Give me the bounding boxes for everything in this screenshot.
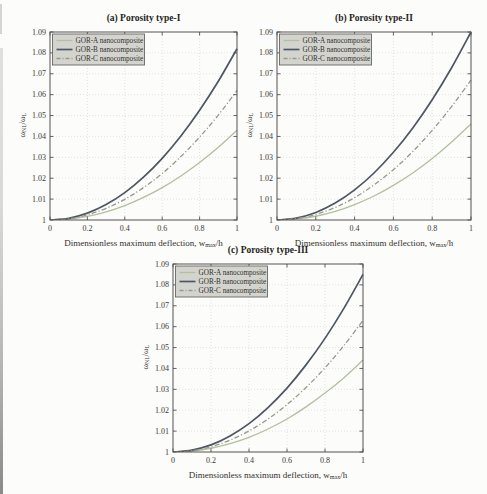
x-tick-label: 0.8: [195, 224, 205, 233]
y-tick-label: 1.03: [155, 385, 169, 394]
x-tick-label: 0: [48, 224, 52, 233]
y-tick-label: 1.01: [155, 427, 169, 436]
y-label-mid: /ω: [140, 348, 150, 356]
y-tick-label: 1.03: [32, 153, 46, 162]
y-tick-label: 1.04: [155, 364, 169, 373]
y-axis-label-a: ωNL/ωL: [17, 93, 27, 157]
curve-gor-b: [50, 49, 237, 220]
x-tick-label: 0: [275, 224, 279, 233]
y-axis-label-b: ωNL/ωL: [244, 93, 254, 157]
x-tick-label: 0.4: [244, 456, 254, 465]
x-tick-label: 0.8: [320, 456, 330, 465]
scan-edge-smudge: [0, 4, 2, 34]
y-label-omega: ω: [140, 364, 150, 370]
legend: GOR-A nanocompositeGOR-B nanocompositeGO…: [280, 34, 372, 65]
chart-canvas-b: 00.20.40.60.8111.011.021.031.041.051.061…: [235, 10, 474, 256]
y-tick-label: 1: [42, 216, 46, 225]
legend-label: GOR-A nanocomposite: [76, 37, 144, 45]
legend-label: GOR-C nanocomposite: [199, 287, 267, 295]
y-label-mid: /ω: [244, 116, 254, 124]
y-tick-label: 1.05: [155, 343, 169, 352]
x-tick-label: 0.2: [206, 456, 216, 465]
y-label-sub-l: L: [248, 113, 254, 117]
x-tick-label: 0.2: [82, 224, 92, 233]
legend-label: GOR-A nanocomposite: [303, 37, 371, 45]
y-tick-label: 1.07: [259, 69, 273, 78]
legend: GOR-A nanocompositeGOR-B nanocompositeGO…: [53, 34, 145, 65]
y-label-mid: /ω: [17, 116, 27, 124]
y-label-sub-l: L: [144, 345, 150, 349]
y-tick-label: 1.07: [32, 69, 46, 78]
x-tick-label: 0.6: [282, 456, 292, 465]
y-tick-label: 1.06: [259, 90, 273, 99]
subplot-c: (c) Porosity type-III 00.20.40.60.8111.0…: [131, 242, 366, 488]
y-label-sub-l: L: [21, 113, 27, 117]
legend-label: GOR-B nanocomposite: [199, 278, 267, 286]
chart-canvas-c: 00.20.40.60.8111.011.021.031.041.051.061…: [131, 242, 366, 488]
legend-label: GOR-C nanocomposite: [303, 55, 371, 63]
x-tick-label: 1: [361, 456, 365, 465]
y-label-sub-nl: NL: [144, 356, 150, 364]
y-tick-label: 1.05: [32, 111, 46, 120]
y-tick-label: 1.09: [155, 260, 169, 269]
legend: GOR-A nanocompositeGOR-B nanocompositeGO…: [176, 266, 268, 297]
x-label-sub: max: [330, 474, 341, 480]
legend-label: GOR-B nanocomposite: [76, 46, 144, 54]
y-tick-label: 1.03: [259, 153, 273, 162]
x-tick-label: 1: [469, 224, 473, 233]
legend-label: GOR-C nanocomposite: [76, 55, 144, 63]
chart-canvas-a: 00.20.40.60.8111.011.021.031.041.051.061…: [8, 10, 240, 256]
y-tick-label: 1.02: [155, 406, 169, 415]
x-label-sub: max: [436, 242, 447, 248]
y-tick-label: 1.08: [32, 48, 46, 57]
scan-edge-shadow: [0, 48, 3, 494]
y-tick-label: 1.05: [259, 111, 273, 120]
y-tick-label: 1.04: [32, 132, 46, 141]
x-axis-label-c: Dimensionless maximum deflection, wmax/h: [173, 470, 363, 480]
y-tick-label: 1.08: [259, 48, 273, 57]
y-label-sub-nl: NL: [21, 124, 27, 132]
x-tick-label: 0.4: [350, 224, 360, 233]
y-tick-label: 1.09: [32, 28, 46, 37]
x-label-suffix: /h: [446, 238, 453, 248]
y-tick-label: 1.07: [155, 301, 169, 310]
y-axis-label-c: ωNL/ωL: [140, 325, 150, 389]
y-label-omega: ω: [17, 132, 27, 138]
y-tick-label: 1: [165, 448, 169, 457]
y-label-sub-nl: NL: [248, 124, 254, 132]
curve-gor-a: [50, 130, 237, 220]
legend-label: GOR-A nanocomposite: [199, 269, 267, 277]
subplot-a: (a) Porosity type-I 00.20.40.60.8111.011…: [8, 10, 240, 256]
y-tick-label: 1.06: [32, 90, 46, 99]
x-tick-label: 0.2: [311, 224, 321, 233]
y-tick-label: 1.02: [32, 174, 46, 183]
x-tick-label: 0: [171, 456, 175, 465]
y-tick-label: 1.06: [155, 322, 169, 331]
y-tick-label: 1.04: [259, 132, 273, 141]
figure-page: { "page": { "background": "#fcfcfa" }, "…: [0, 0, 487, 494]
y-tick-label: 1.01: [259, 195, 273, 204]
curve-gor-a: [173, 360, 363, 452]
legend-label: GOR-B nanocomposite: [303, 46, 371, 54]
y-tick-label: 1.08: [155, 280, 169, 289]
x-tick-label: 0.8: [427, 224, 437, 233]
subplot-b: (b) Porosity type-II 00.20.40.60.8111.01…: [235, 10, 474, 256]
x-label-text: Dimensionless maximum deflection, w: [189, 470, 330, 480]
y-tick-label: 1.01: [32, 195, 46, 204]
x-tick-label: 0.6: [388, 224, 398, 233]
x-tick-label: 0.4: [120, 224, 130, 233]
x-label-suffix: /h: [340, 470, 347, 480]
y-tick-label: 1.09: [259, 28, 273, 37]
y-label-omega: ω: [244, 132, 254, 138]
y-tick-label: 1: [269, 216, 273, 225]
curve-gor-b: [173, 274, 363, 452]
x-tick-label: 0.6: [157, 224, 167, 233]
y-tick-label: 1.02: [259, 174, 273, 183]
